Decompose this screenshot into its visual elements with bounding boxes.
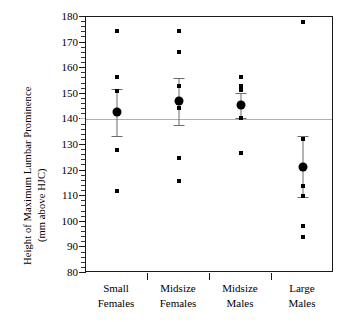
x-axis-divider [147, 273, 148, 280]
y-tick-major [79, 272, 86, 273]
data-point [301, 224, 305, 228]
x-axis-category-label-line: Midsize [147, 281, 209, 296]
x-axis-category-label-line: Males [209, 296, 271, 311]
data-point [177, 50, 181, 54]
data-point [239, 88, 243, 92]
x-axis-category-label: SmallFemales [85, 281, 147, 321]
y-tick-label: 160 [52, 62, 78, 73]
y-tick-label: 120 [52, 164, 78, 175]
chart-figure: Height of Maximum Lumbar Prominence (mm … [0, 0, 345, 322]
y-tick-label: 170 [52, 36, 78, 47]
data-point [177, 106, 181, 110]
data-point [115, 29, 119, 33]
data-point [301, 137, 305, 141]
data-point [177, 84, 181, 88]
mean-marker [113, 107, 122, 116]
mean-marker [299, 162, 308, 171]
y-axis-title-line2: (mm above HJC) [36, 168, 47, 242]
error-bar-cap-upper [236, 93, 247, 94]
y-tick-label: 110 [52, 190, 78, 201]
y-tick-label: 180 [52, 11, 78, 22]
plot-inner [86, 17, 332, 271]
data-point [115, 89, 119, 93]
x-axis-category-label-line: Large [271, 281, 333, 296]
data-column [148, 17, 210, 271]
y-tick-label: 130 [52, 139, 78, 150]
x-axis-divider [271, 273, 272, 280]
x-axis-category-label: MidsizeFemales [147, 281, 209, 321]
data-column [210, 17, 272, 271]
data-point [239, 151, 243, 155]
error-bar-cap-lower [174, 125, 185, 126]
data-point [177, 179, 181, 183]
data-point [115, 189, 119, 193]
data-point [115, 148, 119, 152]
data-point [301, 194, 305, 198]
y-tick-label: 100 [52, 215, 78, 226]
y-tick-label: 90 [52, 241, 78, 252]
data-point [239, 75, 243, 79]
data-point [177, 156, 181, 160]
x-axis-divider [209, 273, 210, 280]
y-tick-label: 80 [52, 267, 78, 278]
data-point [301, 184, 305, 188]
data-point [301, 235, 305, 239]
y-tick-label: 140 [52, 113, 78, 124]
x-axis-category-label-line: Small [85, 281, 147, 296]
x-axis-category-label-line: Midsize [209, 281, 271, 296]
data-column [272, 17, 334, 271]
x-axis-category-label: MidsizeMales [209, 281, 271, 321]
y-axis-title: Height of Maximum Lumbar Prominence (mm … [0, 0, 52, 285]
y-axis-tick-labels: 1801701601501401301201101009080 [52, 0, 78, 290]
data-point [177, 29, 181, 33]
mean-marker [237, 101, 246, 110]
data-point [301, 20, 305, 24]
data-point [239, 116, 243, 120]
y-axis-title-line1: Height of Maximum Lumbar Prominence [22, 87, 33, 265]
y-tick-label: 150 [52, 87, 78, 98]
x-axis-category-label-line: Females [85, 296, 147, 311]
x-axis-category-labels: SmallFemalesMidsizeFemalesMidsizeMalesLa… [85, 281, 333, 321]
error-bar-cap-lower [112, 136, 123, 137]
error-bar-cap-upper [174, 78, 185, 79]
mean-marker [175, 97, 184, 106]
data-point [115, 75, 119, 79]
x-axis-category-label: LargeMales [271, 281, 333, 321]
x-axis-category-label-line: Males [271, 296, 333, 311]
plot-area [85, 16, 333, 272]
x-axis-category-label-line: Females [147, 296, 209, 311]
data-column [86, 17, 148, 271]
